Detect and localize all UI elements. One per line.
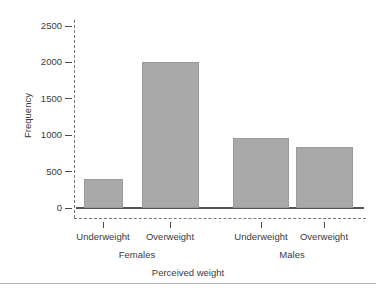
x-label-females-underweight: Underweight <box>76 231 129 242</box>
x-label-males-overweight: Overweight <box>300 231 348 242</box>
x-group-label-males: Males <box>279 249 304 260</box>
x-tick-mark-females-overweight <box>170 222 171 228</box>
x-group-label-females: Females <box>119 249 155 260</box>
bar-males-overweight[interactable] <box>296 147 353 208</box>
x-tick-mark-females-underweight <box>103 222 104 228</box>
bar-males-underweight[interactable] <box>233 138 289 208</box>
x-tick-mark-males-overweight <box>324 222 325 228</box>
bars-layer <box>0 26 376 208</box>
x-label-males-underweight: Underweight <box>234 231 287 242</box>
bar-females-overweight[interactable] <box>142 62 199 208</box>
bottom-divider <box>0 283 376 284</box>
x-axis-title: Perceived weight <box>0 267 376 278</box>
bar-chart-figure: Frequency 2500 2000 1500 1000 500 0 Unde… <box>0 0 376 292</box>
x-label-females-overweight: Overweight <box>146 231 194 242</box>
x-tick-mark-males-underweight <box>261 222 262 228</box>
bar-females-underweight[interactable] <box>84 179 123 208</box>
x-axis-line <box>74 218 366 219</box>
